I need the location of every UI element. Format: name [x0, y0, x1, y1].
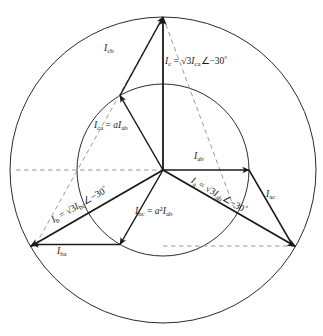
label-I-ca-equation: Ica = aIab [94, 121, 128, 131]
label-I-c-degree-sign: ° [224, 55, 227, 63]
label-I-cb: Icb [104, 44, 114, 54]
label-I-ba-subscript: ba [60, 250, 66, 257]
diagram-canvas [0, 0, 323, 336]
label-I-c-equation: Ic = √3Ica∠−30° [165, 57, 227, 67]
label-I-c-radical: √3 [181, 56, 191, 66]
label-I-ab: Iab [194, 152, 204, 162]
label-I-bc-subscript: bc [138, 210, 144, 217]
phasor-I-ac [249, 170, 293, 246]
label-I-bc-exponent: 2 [159, 205, 162, 212]
label-I-ca-equals: = [106, 120, 111, 130]
label-I-ca-rhs-subscript: ab [121, 124, 127, 131]
label-I-c-equals: = [174, 56, 179, 66]
phasor-I-ca [120, 96, 163, 171]
label-I-c-angle-mark: ∠ [201, 56, 210, 66]
phasor-I-a [163, 170, 296, 247]
label-I-cb-subscript: cb [107, 47, 113, 54]
label-I-ca-subscript: ca [97, 124, 103, 131]
label-I-ba: Iba [57, 247, 67, 257]
phasor-diagram-figure: Icb Ic = √3Ica∠−30° Ica = aIab Iab Ia = … [0, 0, 323, 336]
label-I-c-subscript: c [168, 60, 171, 67]
label-I-ac: Iac [266, 190, 275, 200]
phasor-I-cb [120, 17, 163, 96]
label-I-c-angle-value: −30 [210, 56, 225, 66]
label-I-bc-rhs-subscript: ab [166, 210, 172, 217]
label-I-ac-subscript: ac [269, 193, 275, 200]
label-I-ab-subscript: ab [197, 155, 203, 162]
label-I-c-rhs-subscript: ca [194, 60, 200, 67]
label-I-bc-equals: = [147, 206, 152, 216]
label-I-bc-equation: Ibc = a2Iab [135, 207, 172, 217]
